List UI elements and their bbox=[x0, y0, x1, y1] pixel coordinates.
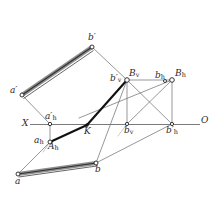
point-aprime bbox=[20, 93, 24, 97]
label-B-v: Bv bbox=[129, 69, 139, 79]
label-b: b bbox=[95, 165, 101, 174]
label-A-h: Ah bbox=[48, 142, 59, 152]
label-a-h-subscript: h bbox=[39, 138, 43, 146]
label-b-h: bh bbox=[155, 71, 165, 81]
line-b-to-bprimeh bbox=[96, 124, 172, 163]
label-B-h-subscript: h bbox=[182, 71, 186, 79]
point-Bh bbox=[170, 78, 175, 83]
band-a-b bbox=[18, 163, 97, 177]
label-b-prime-v: b′v bbox=[110, 74, 122, 84]
label-B-h: Bh bbox=[175, 69, 186, 79]
label-a-prime-h: a′h bbox=[45, 112, 57, 122]
label-a-prime-h-subscript: h bbox=[52, 114, 56, 122]
label-b-v: bv bbox=[124, 126, 133, 136]
point-bprime bbox=[90, 45, 94, 49]
label-b-v-subscript: v bbox=[130, 128, 134, 136]
diagram-canvas bbox=[0, 0, 216, 197]
label-a: a bbox=[15, 177, 20, 186]
point-aprimeh bbox=[48, 122, 51, 125]
label-a-prime: a′ bbox=[10, 86, 17, 95]
label-X: X bbox=[22, 119, 28, 128]
label-b-h-subscript: h bbox=[161, 73, 165, 81]
line-b-to-Bv bbox=[96, 80, 127, 163]
label-K: K bbox=[84, 127, 91, 136]
label-b-prime-h: b′h bbox=[166, 126, 178, 136]
band-aprime-bprime bbox=[22, 47, 94, 99]
line-K-to-Bh bbox=[79, 80, 172, 118]
label-O: O bbox=[201, 116, 208, 125]
label-b-prime: b′ bbox=[88, 33, 96, 42]
label-b-prime-h-subscript: h bbox=[174, 128, 178, 136]
label-B-v-subscript: v bbox=[136, 71, 140, 79]
geometry-figure: a′ b′ a′h ah Ah K X O a b b′v Bv bv bh B… bbox=[0, 0, 216, 197]
label-b-prime-v-subscript: v bbox=[118, 76, 122, 84]
label-A-h-subscript: h bbox=[55, 144, 59, 152]
label-a-h: ah bbox=[34, 136, 44, 146]
